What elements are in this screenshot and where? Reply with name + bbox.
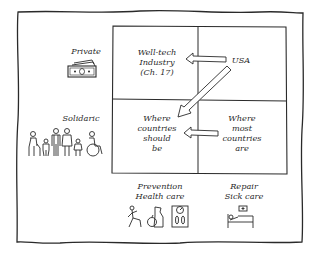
quadrant-bottom-right: Where most countries are [212,113,272,153]
hospital-bed-icon [226,204,256,230]
column-label-line: Health care [122,191,198,201]
quadrant-text-line: (Ch. 17) [124,67,190,77]
quadrant-top-right: USA [226,55,256,65]
quadrant-text-line: Industry [124,57,190,67]
quadrant-text-line: countries [124,123,190,133]
column-label-prevention: Prevention Health care [122,181,198,201]
healthy-food-icon [146,205,166,229]
exercise-icon [126,205,144,229]
quadrant-text-line: USA [226,55,256,65]
quadrant-text-line: Where [212,113,272,123]
column-label-repair: Repair Sick care [216,181,272,201]
column-label-line: Prevention [122,181,198,191]
scale-icon [170,203,190,229]
quadrant-text-line: Where [124,113,190,123]
arrow-usa-to-welltech [186,53,226,64]
quadrant-top-left: Well-tech Industry (Ch. 17) [124,47,190,77]
column-label-line: Repair [216,181,272,191]
quadrant-text-line: should [124,133,190,143]
quadrant-bottom-left: Where countries should be [124,113,190,153]
money-icon [66,59,98,79]
quadrant-text-line: are [212,143,272,153]
quadrant-text-line: countries [212,133,272,143]
people-family-icon [26,126,106,158]
quadrant-text-line: most [212,123,272,133]
row-label-private: Private [66,46,106,56]
quadrant-text-line: Well-tech [124,47,190,57]
quadrant-text-line: be [124,143,190,153]
column-label-line: Sick care [216,191,272,201]
row-label-solidaric: Solidaric [56,113,106,123]
